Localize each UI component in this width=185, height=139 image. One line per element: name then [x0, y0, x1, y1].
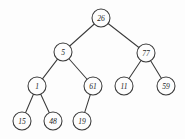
binary-search-tree-figure: 265771611159154819	[0, 0, 185, 139]
tree-edge	[108, 24, 139, 48]
tree-node-label: 26	[97, 14, 105, 23]
tree-canvas: 265771611159154819	[0, 0, 185, 139]
tree-node-label: 59	[162, 82, 170, 91]
tree-edge	[70, 24, 95, 46]
tree-edge	[129, 60, 141, 78]
tree-edge	[85, 95, 91, 113]
tree-node: 11	[115, 77, 133, 95]
tree-node: 19	[73, 112, 91, 130]
tree-node-label: 5	[61, 48, 65, 57]
tree-node: 15	[13, 112, 31, 130]
tree-node: 48	[44, 112, 62, 130]
tree-node-label: 19	[78, 117, 86, 126]
tree-node: 59	[157, 77, 175, 95]
tree-node-label: 15	[18, 117, 26, 126]
tree-node: 61	[84, 77, 102, 95]
tree-edges	[26, 24, 162, 113]
tree-node: 77	[137, 44, 155, 62]
tree-node-label: 61	[89, 82, 96, 91]
tree-edge	[42, 59, 57, 79]
tree-node: 26	[92, 9, 110, 27]
tree-edge	[41, 94, 50, 113]
tree-node-label: 11	[121, 82, 128, 91]
tree-node: 5	[54, 43, 72, 61]
tree-node-label: 77	[142, 49, 151, 58]
tree-nodes: 265771611159154819	[13, 9, 175, 130]
tree-edge	[151, 61, 162, 79]
tree-edge	[26, 94, 34, 112]
tree-node: 1	[28, 77, 46, 95]
tree-node-label: 1	[35, 82, 39, 91]
tree-edge	[69, 59, 87, 80]
tree-node-label: 48	[49, 117, 57, 126]
